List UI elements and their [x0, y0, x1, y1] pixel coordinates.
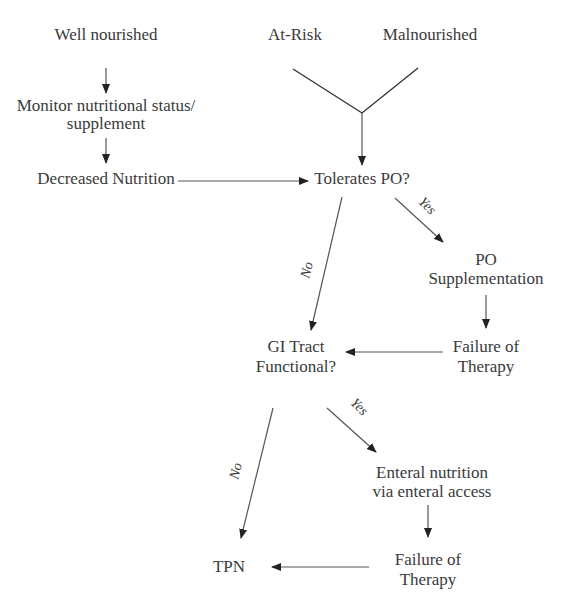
- node-enteral-line1: Enteral nutrition: [376, 463, 488, 483]
- node-gi-line1: GI Tract: [267, 337, 324, 357]
- node-tolerates-po: Tolerates PO?: [314, 169, 410, 189]
- node-failure1-line2: Therapy: [458, 357, 515, 377]
- node-monitor-line2: supplement: [67, 114, 145, 134]
- node-failure2-line1: Failure of: [395, 550, 462, 570]
- node-po-supp-line2: Supplementation: [428, 269, 543, 289]
- arrow-no-to-tpn: [241, 408, 273, 538]
- node-enteral-line2: via enteral access: [373, 482, 492, 502]
- merge-lines-atrisk-malnourished: [293, 68, 418, 113]
- flowchart-connectors: [0, 0, 571, 602]
- node-po-supp-line1: PO: [475, 250, 497, 270]
- node-gi-line2: Functional?: [256, 357, 336, 377]
- node-at-risk: At-Risk: [268, 25, 322, 45]
- node-tpn: TPN: [213, 557, 245, 577]
- node-monitor-line1: Monitor nutritional status/: [17, 96, 196, 116]
- nutrition-flowchart: Well nourished At-Risk Malnourished Moni…: [0, 0, 571, 602]
- node-failure2-line2: Therapy: [400, 570, 457, 590]
- arrow-yes-to-enteral: [327, 408, 376, 452]
- node-failure1-line1: Failure of: [453, 337, 520, 357]
- node-malnourished: Malnourished: [383, 25, 477, 45]
- node-decreased-nutrition: Decreased Nutrition: [37, 169, 174, 189]
- node-well-nourished: Well nourished: [55, 25, 158, 45]
